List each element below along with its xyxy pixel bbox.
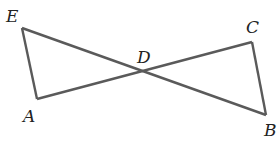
segment-CB <box>252 42 266 115</box>
geometry-diagram: E A D C B <box>0 0 280 142</box>
label-B: B <box>263 120 277 140</box>
label-E: E <box>5 6 19 26</box>
label-D: D <box>136 47 151 67</box>
segment-EA <box>22 28 37 99</box>
label-C: C <box>246 17 259 37</box>
diagram-canvas: E A D C B <box>0 0 280 142</box>
label-A: A <box>21 106 35 126</box>
